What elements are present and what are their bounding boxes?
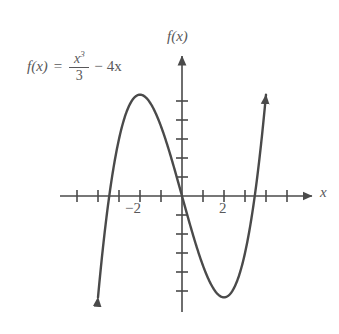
x-axis (60, 190, 312, 202)
function-equation-label: f(x) = x3 3 − 4x (27, 50, 122, 83)
x-tick-label-negative-two: −2 (125, 200, 141, 217)
y-axis-label: f(x) (167, 28, 188, 45)
fraction-denominator: 3 (73, 68, 86, 83)
numerator-exponent: 3 (80, 49, 85, 59)
equation-fraction: x3 3 (69, 50, 89, 83)
equation-function-name: f(x) (27, 58, 48, 75)
last-term-text: 4x (107, 58, 122, 74)
equation-equals-sign: = (54, 58, 62, 75)
fraction-numerator: x3 (71, 50, 88, 67)
x-tick-label-two: 2 (219, 200, 227, 217)
equation-minus-operator: − (94, 58, 102, 75)
equation-last-term: 4x (107, 58, 122, 75)
function-graph-figure: f(x) = x3 3 − 4x f(x) x −2 2 (0, 0, 339, 334)
x-axis-label: x (320, 184, 327, 201)
